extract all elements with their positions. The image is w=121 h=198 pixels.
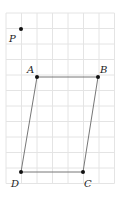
point-a [35, 75, 39, 79]
point-b [96, 75, 100, 79]
point-label-b: B [99, 64, 107, 75]
point-c [81, 170, 85, 174]
point-label-p: P [8, 33, 16, 44]
point-label-d: D [10, 178, 19, 189]
points: PABCD [8, 27, 107, 189]
point-p [19, 27, 23, 31]
segment-da [21, 77, 37, 172]
point-d [19, 170, 23, 174]
point-label-c: C [84, 178, 92, 189]
segment-bc [83, 77, 98, 172]
parallelogram-abcd [21, 77, 98, 172]
diagram-canvas: PABCD [0, 0, 121, 198]
grid [6, 13, 115, 184]
point-label-a: A [26, 64, 34, 75]
